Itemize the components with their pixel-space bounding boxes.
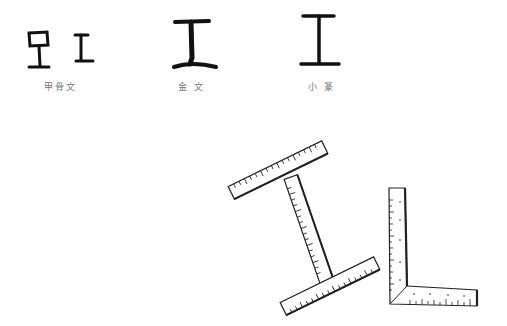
l-shaped-ruler (389, 188, 477, 306)
i-shaped-ruler (228, 141, 380, 315)
oracle-bone-glyph-2 (75, 35, 93, 61)
bronze-glyph (174, 21, 216, 67)
label-oracle-bone: 甲骨文 (44, 80, 77, 93)
label-bronze: 金 文 (178, 80, 205, 93)
small-seal-glyph (301, 16, 339, 64)
oracle-bone-glyph-1 (29, 32, 49, 67)
figure-canvas (0, 0, 507, 326)
label-small-seal: 小 篆 (308, 80, 335, 93)
